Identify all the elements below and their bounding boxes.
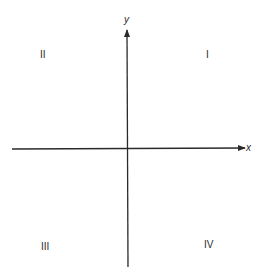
quadrant-label-2: II (40, 50, 46, 60)
quadrant-label-4: IV (204, 240, 213, 250)
x-axis-label: x (246, 143, 251, 153)
quadrant-label-3: III (41, 242, 49, 252)
quadrant-label-1: I (206, 50, 209, 60)
coordinate-plane (0, 0, 264, 280)
x-axis (12, 148, 245, 149)
y-axis-label: y (124, 15, 129, 25)
y-axis (127, 30, 128, 267)
